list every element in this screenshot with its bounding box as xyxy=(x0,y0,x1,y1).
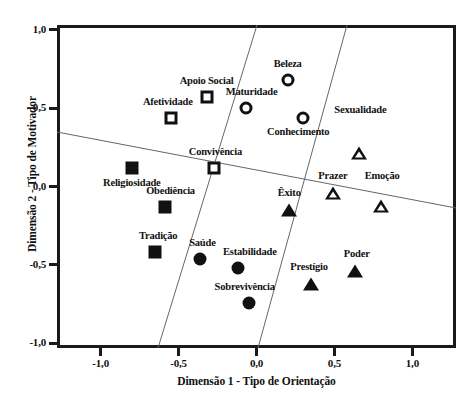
data-point-label: Tradição xyxy=(139,230,177,241)
data-point-marker[interactable] xyxy=(239,102,252,115)
x-tick-label: 1,0 xyxy=(390,357,434,369)
data-point-label: Obediência xyxy=(146,185,195,196)
y-tick-mark xyxy=(49,342,57,345)
x-tick-label: 0,5 xyxy=(312,357,356,369)
data-point-label: Emoção xyxy=(365,170,400,181)
y-tick-label: 1,0 xyxy=(6,23,46,35)
x-tick-mark xyxy=(411,348,414,356)
x-tick-label: -0,5 xyxy=(157,357,201,369)
data-point-marker[interactable] xyxy=(281,204,297,217)
y-tick-mark xyxy=(49,107,57,110)
data-point-marker[interactable] xyxy=(194,252,207,265)
data-point-marker[interactable] xyxy=(158,200,171,213)
data-point-marker[interactable] xyxy=(303,277,319,290)
x-tick-mark xyxy=(177,348,180,356)
data-point-label: Prestígio xyxy=(290,261,328,272)
data-point-marker[interactable] xyxy=(125,161,138,174)
data-point-marker[interactable] xyxy=(373,199,389,212)
y-axis-title: Dimensão 2 - Tipo de Motivador xyxy=(26,59,38,289)
data-point-label: Estabilidade xyxy=(223,246,277,257)
plot-data-area: Apoio SocialAfetividadeConvivênciaReligi… xyxy=(57,25,456,348)
data-point-label: Maturidade xyxy=(226,86,278,97)
data-point-marker[interactable] xyxy=(200,91,213,104)
data-point-marker[interactable] xyxy=(325,186,341,199)
data-point-marker[interactable] xyxy=(347,265,363,278)
data-point-label: Saúde xyxy=(189,237,215,248)
x-tick-label: 0,0 xyxy=(235,357,279,369)
x-tick-mark xyxy=(333,348,336,356)
x-tick-mark xyxy=(99,348,102,356)
data-point-label: Afetividade xyxy=(143,96,193,107)
data-point-label: Sexualidade xyxy=(334,104,386,115)
data-point-marker[interactable] xyxy=(297,111,310,124)
x-axis-title: Dimensão 1 - Tipo de Orientação xyxy=(57,375,456,387)
y-tick-mark xyxy=(49,185,57,188)
data-point-marker[interactable] xyxy=(208,161,221,174)
data-point-marker[interactable] xyxy=(149,246,162,259)
data-point-label: Convivência xyxy=(189,146,242,157)
data-point-label: Prazer xyxy=(318,170,347,181)
data-point-label: Sobrevivência xyxy=(215,281,275,292)
data-point-label: Poder xyxy=(344,248,370,259)
x-tick-mark xyxy=(255,348,258,356)
data-point-label: Apoio Social xyxy=(180,75,234,86)
y-tick-mark xyxy=(49,263,57,266)
data-point-marker[interactable] xyxy=(281,73,294,86)
x-tick-label: -1,0 xyxy=(79,357,123,369)
y-tick-mark xyxy=(49,28,57,31)
y-tick-label: -1,0 xyxy=(6,336,46,348)
scatter-plot-figure: 1,00,50,0-0,5-1,0 -1,0-0,50,00,51,0 Apoi… xyxy=(0,0,472,403)
data-point-marker[interactable] xyxy=(231,262,244,275)
data-point-marker[interactable] xyxy=(351,146,367,159)
data-point-marker[interactable] xyxy=(242,296,255,309)
data-point-marker[interactable] xyxy=(164,111,177,124)
data-point-label: Conhecimento xyxy=(267,126,329,137)
data-point-label: Beleza xyxy=(274,58,302,69)
data-point-label: Êxito xyxy=(278,187,301,198)
